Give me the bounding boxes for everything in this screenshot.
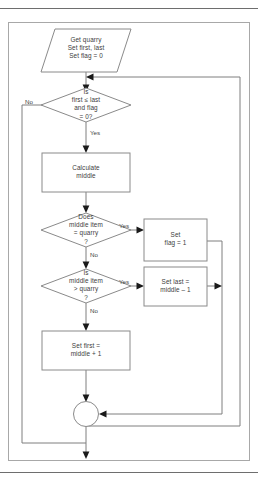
arrowhead-loopback [86, 74, 94, 81]
flowchart-canvas [0, 0, 258, 484]
arrowhead-equal-yes [137, 227, 145, 234]
arrowhead-setlast-to-rail [215, 283, 223, 290]
flowchart-page: Get quarry Set first, last Set flag = 0 … [0, 0, 258, 484]
arrowhead-rail-to-connector [99, 411, 107, 418]
arrowhead-connector-exit [83, 452, 90, 460]
calculate-middle-box [42, 153, 130, 192]
arrowhead-loop-yes [83, 146, 90, 154]
set-last-box [144, 267, 207, 306]
edge-setflag-to-rail [207, 241, 222, 414]
edge-label-greater-no: No [90, 307, 98, 314]
equal-check-diamond [41, 213, 131, 247]
greater-check-diamond [41, 269, 131, 303]
edge-label-loop-yes: Yes [90, 129, 100, 136]
arrowhead-middle-to-equal [83, 206, 90, 214]
set-flag-box [144, 219, 207, 261]
start-parallelogram [41, 29, 131, 72]
edge-label-equal-yes: Yes [119, 222, 129, 229]
arrowhead-greater-yes [137, 283, 145, 290]
edge-label-loop-no: No [25, 98, 33, 105]
connector-circle [74, 402, 99, 427]
arrowhead-greater-no [83, 324, 90, 332]
arrowhead-setfirst-to-connector [83, 395, 90, 403]
loop-condition-diamond [41, 88, 131, 122]
arrowhead-equal-no [83, 262, 90, 270]
set-first-box [42, 331, 130, 370]
edge-label-equal-no: No [90, 251, 98, 258]
edge-label-greater-yes: Yes [119, 278, 129, 285]
